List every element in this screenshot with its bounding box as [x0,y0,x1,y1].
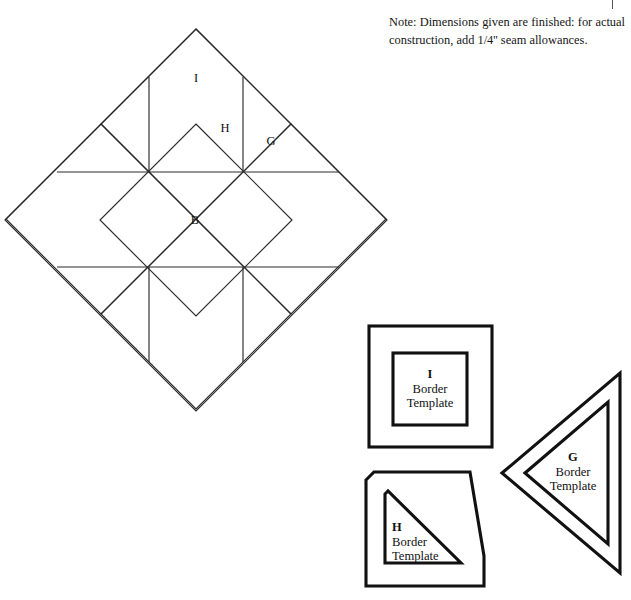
template-i-line2: Template [407,396,454,411]
template-h-line1: Border [392,534,439,549]
template-g-key: G [550,450,597,465]
block-label-i: I [194,71,198,86]
template-h-key: H [392,520,439,535]
template-h-caption: H Border Template [392,520,439,564]
page-canvas: Note: Dimensions given are finished: for… [0,0,631,600]
template-i-key: I [407,367,454,382]
block-label-b: B [191,213,199,228]
template-h-line2: Template [392,549,439,564]
block-label-g: G [266,134,275,149]
template-i-caption: I Border Template [407,367,454,411]
template-g-caption: G Border Template [550,450,597,494]
template-i-line1: Border [407,381,454,396]
template-g-line2: Template [550,479,597,494]
template-g-line1: Border [550,464,597,479]
block-label-h: H [220,121,229,136]
block-edge-square-bottom [101,219,291,409]
artwork-layer [0,0,631,600]
